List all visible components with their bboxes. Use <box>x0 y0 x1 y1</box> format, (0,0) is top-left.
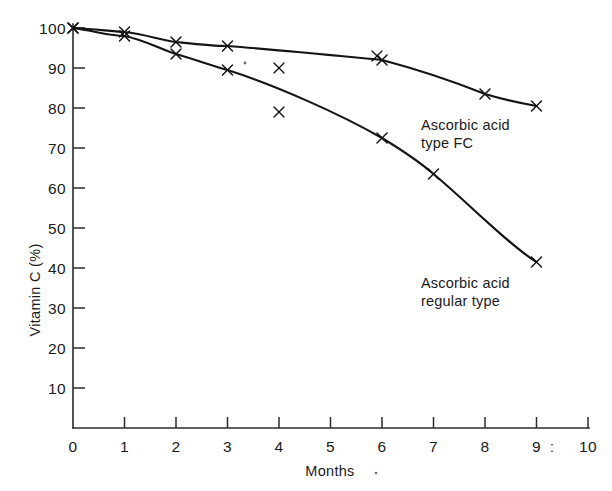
x-tick-label-7: 7 <box>429 438 438 455</box>
y-axis-ticks <box>73 28 85 388</box>
y-tick-label-30: 30 <box>48 300 66 317</box>
y-tick-label-70: 70 <box>48 140 66 157</box>
annotation-regular-line-1: Ascorbic acid <box>421 275 510 291</box>
annotation-regular-line-2: regular type <box>421 293 500 309</box>
scatter-point-fc-m4 <box>274 63 284 73</box>
annotation-fc-line-1: Ascorbic acid <box>421 117 510 133</box>
y-tick-label-80: 80 <box>48 100 66 117</box>
axes-group <box>73 24 589 428</box>
annotation-ascorbic-acid-type-fc: Ascorbic acid type FC <box>421 117 510 151</box>
y-tick-label-90: 90 <box>48 60 66 77</box>
x-tick-label-1: 1 <box>120 438 129 455</box>
scatter-point-regular-m4 <box>274 107 284 117</box>
chart-figure: 100 90 80 70 60 50 40 30 20 10 0 1 <box>0 0 612 491</box>
ink-speck-upper <box>244 62 247 65</box>
data-point-regular-m6 <box>377 133 387 143</box>
y-axis-title: Vitamin C (%) <box>27 243 43 336</box>
x-tick-label-4: 4 <box>274 438 283 455</box>
y-tick-label-40: 40 <box>48 260 66 277</box>
x-axis-tick-labels: 0 1 2 3 4 5 6 7 8 9 10 <box>68 438 597 455</box>
y-tick-label-100: 100 <box>39 20 66 37</box>
series-fc-markers <box>68 23 542 111</box>
x-tick-label-10: 10 <box>579 438 597 455</box>
x-tick-label-6: 6 <box>377 438 386 455</box>
y-tick-label-20: 20 <box>48 340 66 357</box>
x-axis-ticks <box>125 417 589 428</box>
x-tick-label-5: 5 <box>326 438 335 455</box>
x-axis-title: Months <box>305 463 354 479</box>
x-tick-label-3: 3 <box>223 438 232 455</box>
annotation-ascorbic-acid-regular-type: Ascorbic acid regular type <box>421 275 510 309</box>
data-point-regular-m9 <box>532 257 542 267</box>
y-axis-tick-labels: 100 90 80 70 60 50 40 30 20 10 <box>39 20 66 397</box>
series-ascorbic-acid-type-fc <box>68 23 542 111</box>
series-regular-scatter-markers <box>274 107 284 117</box>
y-tick-label-60: 60 <box>48 180 66 197</box>
x-tick-label-0: 0 <box>68 438 77 455</box>
annotation-fc-line-2: type FC <box>421 135 473 151</box>
vitamin-c-line-chart: 100 90 80 70 60 50 40 30 20 10 0 1 <box>0 0 612 491</box>
stray-colon-artifact: : <box>550 439 554 455</box>
ink-speck-lower <box>375 472 378 475</box>
x-tick-label-8: 8 <box>480 438 489 455</box>
data-point-regular-m7 <box>429 169 439 179</box>
x-tick-label-9: 9 <box>532 438 541 455</box>
x-tick-label-2: 2 <box>171 438 180 455</box>
y-tick-label-50: 50 <box>48 220 66 237</box>
y-tick-label-10: 10 <box>48 380 66 397</box>
series-fc-line <box>73 28 537 106</box>
